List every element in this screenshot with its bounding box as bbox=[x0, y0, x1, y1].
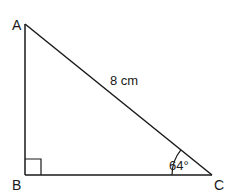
right-angle-marker bbox=[25, 159, 41, 175]
side-ac-hypotenuse bbox=[25, 24, 212, 175]
hypotenuse-length-label: 8 cm bbox=[110, 73, 138, 88]
vertex-label-c: C bbox=[214, 177, 224, 193]
triangle-diagram: A B C 8 cm 64° bbox=[0, 0, 233, 195]
vertex-label-b: B bbox=[12, 177, 21, 193]
vertex-label-a: A bbox=[12, 17, 22, 33]
angle-c-label: 64° bbox=[169, 158, 189, 173]
